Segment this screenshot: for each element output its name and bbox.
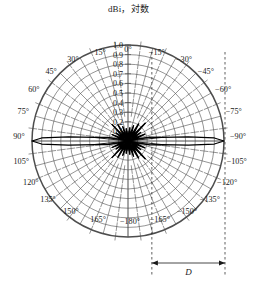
angle-label: −150° [177, 207, 197, 216]
angle-label: −105° [227, 156, 247, 165]
radial-tick-label: 0.1 [113, 127, 123, 136]
radial-tick-label: 0.7 [113, 69, 123, 78]
angle-label: 60° [28, 85, 39, 94]
angle-label: −180° [120, 217, 140, 226]
radial-tick-label: 0.6 [113, 79, 123, 88]
aperture-dimension-annotation [152, 52, 225, 275]
angle-label: −45° [198, 67, 214, 76]
angle-label: 165° [90, 214, 106, 223]
angle-label: −90° [230, 132, 246, 141]
radial-tick-label: 0.3 [113, 108, 123, 117]
angle-label: 90° [13, 132, 24, 141]
angle-label: 105° [13, 156, 29, 165]
angle-label: 45° [45, 67, 56, 76]
angle-label: 15° [94, 48, 105, 57]
angle-label: 75° [18, 107, 29, 116]
angle-label: 120° [23, 178, 39, 187]
angle-label: 30° [67, 54, 78, 63]
angle-label: −135° [200, 194, 220, 203]
radial-tick-label: 0.8 [113, 60, 123, 69]
radial-tick-label: 1.0 [113, 41, 123, 50]
radial-tick-label: 0.4 [113, 98, 123, 107]
angle-label: −120° [217, 178, 237, 187]
angle-label: 0° [124, 45, 131, 54]
angle-label: −30° [176, 54, 192, 63]
angle-label: −15° [149, 48, 165, 57]
radial-tick-label: 0.5 [113, 89, 123, 98]
angle-label: 135° [40, 194, 56, 203]
angle-label: −165° [150, 214, 170, 223]
radial-tick-label: 0.2 [113, 117, 123, 126]
angle-label: −60° [215, 85, 231, 94]
angle-label: −75° [226, 107, 242, 116]
polar-radiation-pattern-chart [0, 0, 257, 281]
aperture-dimension-label: D [185, 267, 192, 277]
angle-label: 150° [63, 207, 79, 216]
radial-tick-label: 0.9 [113, 50, 123, 59]
